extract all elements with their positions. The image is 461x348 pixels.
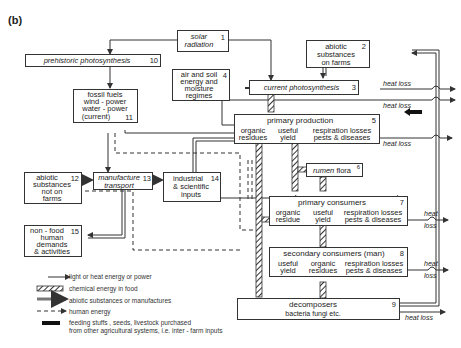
node-number: 5 — [372, 116, 376, 125]
node-label: & activities — [27, 248, 77, 256]
col-text: residue — [271, 216, 305, 224]
node-number: 8 — [400, 249, 404, 258]
black-arrow-5 — [404, 108, 422, 116]
node-number: 11 — [125, 113, 133, 122]
heat-loss-label: heat loss — [383, 140, 411, 147]
legend-chemical-energy: chemical energy in food — [69, 285, 138, 292]
node-number: 12 — [71, 174, 79, 183]
heat-label: heat — [424, 210, 438, 217]
node-prehistoric-photosynthesis: prehistoric photosynthesis 10 — [25, 54, 161, 67]
figure-label: (b) — [8, 14, 22, 26]
node-number: 13 — [143, 174, 151, 183]
node-label: prehistoric photosynthesis — [30, 57, 144, 65]
legend-light-energy: light or heat energy or power — [69, 273, 152, 280]
node-subtitle: bacteria fungi etc. — [248, 310, 378, 318]
node-fossil-fuels: fossil fuels wind - power water - power … — [73, 89, 138, 123]
node-label: on farms — [311, 59, 361, 67]
node-number: 6 — [357, 164, 360, 170]
node-industrial-inputs: industrial & scientific inputs 14 — [163, 172, 221, 202]
node-number: 1 — [221, 33, 225, 42]
node-number: 3 — [352, 83, 356, 92]
node-label: radiation — [183, 41, 215, 49]
node-current-photosynthesis: current photosynthesis 3 — [249, 80, 359, 95]
legend-abiotic: abiotic substances or manufactures — [69, 297, 171, 304]
node-title: decomposers — [248, 301, 378, 309]
col-text: residues — [236, 134, 270, 142]
legend-feeding-stuffs-2: from other agricultural systems, i.e. in… — [69, 327, 223, 334]
node-title: secondary consumers (man) — [278, 250, 390, 258]
node-non-food-demands: non - food human demands & activities 15 — [24, 225, 82, 257]
legend-human-energy: human energy — [69, 308, 111, 315]
node-label: rumen — [313, 166, 334, 175]
node-manufacture-transport: manufacture transport 13 — [93, 172, 153, 190]
heat-loss-label: heat loss — [405, 314, 433, 321]
node-abiotic-on-farms: abiotic substances on farms 2 — [306, 40, 370, 68]
node-label: regimes — [175, 92, 223, 100]
loss-label: loss — [424, 222, 436, 229]
col-text: yield — [308, 216, 338, 224]
node-primary-production: primary production 5 organic residues us… — [234, 114, 380, 144]
node-number: 9 — [392, 300, 396, 309]
node-number: 15 — [71, 227, 79, 236]
node-number: 14 — [211, 174, 219, 183]
node-number: 2 — [362, 42, 366, 51]
heat-label: heat — [424, 260, 438, 267]
node-label: farms — [27, 195, 77, 203]
node-label: flora — [336, 166, 351, 175]
node-rumen-flora: rumen flora 6 — [306, 163, 363, 177]
col-text: pests & diseases — [342, 267, 406, 275]
node-title: primary consumers — [278, 199, 386, 207]
heat-loss-label: heat loss — [383, 102, 411, 109]
node-primary-consumers: primary consumers 7 organic residue usef… — [269, 196, 408, 226]
heat-loss-label: heat loss — [383, 80, 411, 87]
col-text: pests & diseases — [307, 134, 377, 142]
col-text: residues — [306, 267, 340, 275]
node-number: 10 — [150, 56, 158, 65]
col-text: yield — [271, 267, 305, 275]
legend-feeding-stuffs: feeding stuffs , seeds, livestock purcha… — [69, 319, 191, 326]
node-number: 4 — [223, 71, 227, 80]
node-abiotic-not-on-farms: abiotic substances not on farms 12 — [24, 172, 82, 204]
node-label: (current) — [76, 113, 116, 121]
node-label: transport — [95, 182, 143, 190]
node-decomposers: decomposers bacteria fungi etc. 9 — [237, 298, 400, 320]
node-label: current photosynthesis — [254, 84, 349, 92]
node-air-soil-regimes: air and soil energy and moisture regimes… — [172, 69, 230, 101]
col-text: yield — [273, 134, 303, 142]
node-solar-radiation: solar radiation 1 — [177, 30, 229, 52]
node-label: inputs — [166, 191, 216, 199]
col-text: pests & diseases — [340, 216, 406, 224]
node-title: primary production — [245, 117, 355, 125]
node-secondary-consumers: secondary consumers (man) 8 useful yield… — [269, 247, 408, 277]
loss-label: loss — [424, 272, 436, 279]
node-number: 7 — [400, 198, 404, 207]
